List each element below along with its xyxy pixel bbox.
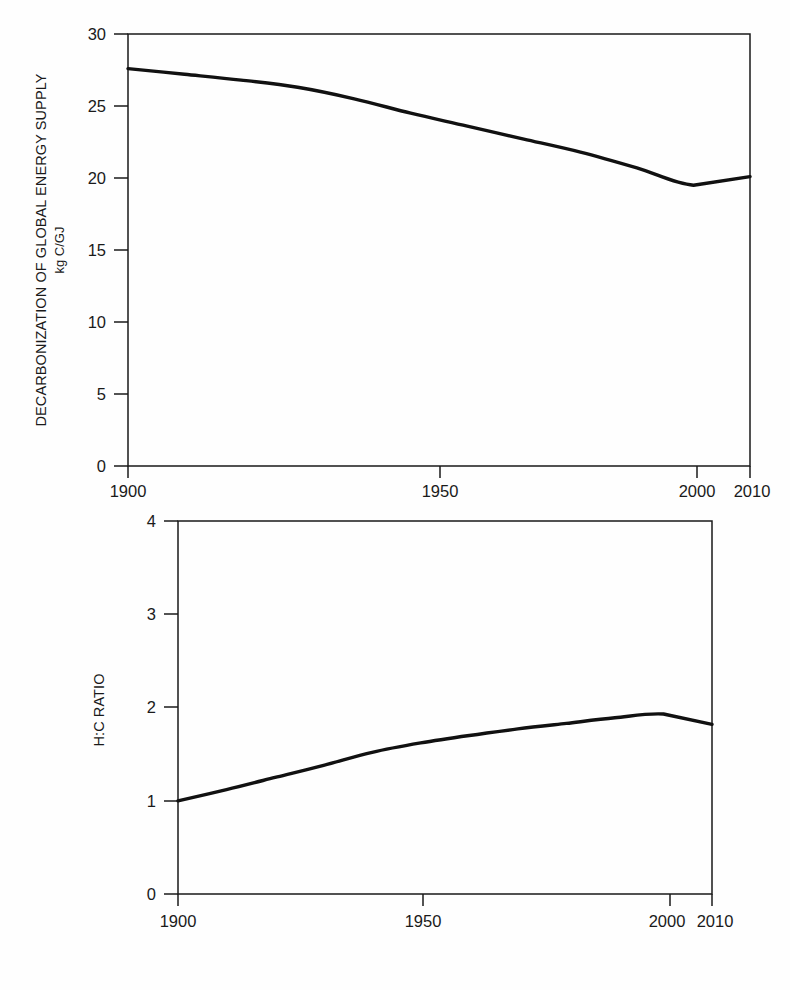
decarbonization-chart: DECARBONIZATION OF GLOBAL ENERGY SUPPLY … — [0, 0, 790, 505]
top-ytick-label-0: 0 — [97, 457, 106, 475]
hc-ratio-chart-svg: H:C RATIO 4 3 2 1 0 1900 1950 2000 — [0, 495, 790, 990]
top-ytick-label-5: 5 — [97, 385, 106, 403]
bottom-xtick-label-2010: 2010 — [697, 912, 734, 930]
bottom-ytick-label-2: 2 — [147, 698, 156, 716]
bottom-ytick-label-4: 4 — [147, 512, 156, 530]
bottom-ytick-label-1: 1 — [147, 792, 156, 810]
bottom-ytick-label-0: 0 — [147, 885, 156, 903]
hc-ratio-series-line — [178, 714, 712, 801]
top-ytick-label-15: 15 — [88, 241, 106, 259]
bottom-plot-frame — [178, 521, 712, 894]
hc-ratio-chart: H:C RATIO 4 3 2 1 0 1900 1950 2000 — [0, 495, 790, 990]
top-ytick-label-25: 25 — [88, 97, 106, 115]
bottom-ytick-label-3: 3 — [147, 605, 156, 623]
decarbonization-chart-svg: DECARBONIZATION OF GLOBAL ENERGY SUPPLY … — [0, 0, 790, 505]
top-y-axis-title: DECARBONIZATION OF GLOBAL ENERGY SUPPLY — [33, 73, 49, 426]
bottom-xtick-label-2000: 2000 — [649, 912, 686, 930]
bottom-y-axis-title: H:C RATIO — [91, 673, 107, 746]
top-ytick-label-20: 20 — [88, 169, 106, 187]
top-ytick-label-30: 30 — [88, 25, 106, 43]
top-plot-frame — [128, 34, 750, 466]
top-y-axis-units: kg C/GJ — [52, 227, 67, 274]
figure-page: DECARBONIZATION OF GLOBAL ENERGY SUPPLY … — [0, 0, 790, 990]
decarbonization-series-line — [128, 69, 750, 186]
bottom-xtick-label-1950: 1950 — [405, 912, 442, 930]
bottom-xtick-label-1900: 1900 — [160, 912, 197, 930]
top-ytick-label-10: 10 — [88, 313, 106, 331]
